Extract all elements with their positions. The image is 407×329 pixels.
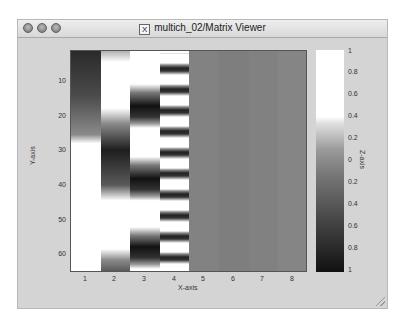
- colorbar: [316, 50, 344, 272]
- y-tick: 20: [46, 112, 66, 119]
- x-axis-label: X-axis: [178, 284, 197, 291]
- column-4: [160, 51, 190, 271]
- x-tick: 8: [286, 275, 298, 282]
- column-3: [130, 51, 160, 271]
- x-tick: 5: [197, 275, 209, 282]
- title-bar[interactable]: Xmultich_02/Matrix Viewer: [18, 20, 387, 38]
- y-tick: 30: [46, 146, 66, 153]
- x-tick: 3: [138, 275, 150, 282]
- colorbar-tick: 0.4: [348, 112, 358, 119]
- y-axis-label: Y-axis: [29, 146, 36, 165]
- colorbar-tick: 0.8: [348, 68, 358, 75]
- resize-grip-icon[interactable]: [376, 297, 385, 306]
- heatmap-plot[interactable]: [70, 50, 307, 272]
- colorbar-tick: 0.8: [348, 244, 358, 251]
- y-tick: 40: [46, 181, 66, 188]
- y-tick: 60: [46, 250, 66, 257]
- column-7: [249, 51, 279, 271]
- colorbar-tick: 1: [348, 266, 352, 273]
- colorbar-tick: 0.4: [348, 200, 358, 207]
- column-5: [189, 51, 219, 271]
- x11-icon: X: [139, 24, 150, 35]
- window-title: Xmultich_02/Matrix Viewer: [18, 22, 387, 35]
- colorbar-tick: 0.6: [348, 222, 358, 229]
- colorbar-tick: 0.2: [348, 178, 358, 185]
- colorbar-tick: 0.6: [348, 90, 358, 97]
- y-tick: 10: [46, 77, 66, 84]
- y-tick: 50: [46, 216, 66, 223]
- column-6: [219, 51, 249, 271]
- colorbar-tick: 0: [348, 156, 352, 163]
- x-tick: 4: [168, 275, 180, 282]
- column-1: [71, 51, 101, 271]
- x-tick: 1: [79, 275, 91, 282]
- colorbar-tick: 1: [348, 47, 352, 54]
- matrix-viewer-window: Xmultich_02/Matrix Viewer 10 20 30 40 50…: [17, 19, 388, 309]
- x-tick: 6: [227, 275, 239, 282]
- z-axis-label: Z-axis: [359, 150, 366, 169]
- colorbar-tick: 0.2: [348, 134, 358, 141]
- x-tick: 7: [256, 275, 268, 282]
- column-2: [101, 51, 131, 271]
- column-8: [278, 51, 307, 271]
- x-tick: 2: [108, 275, 120, 282]
